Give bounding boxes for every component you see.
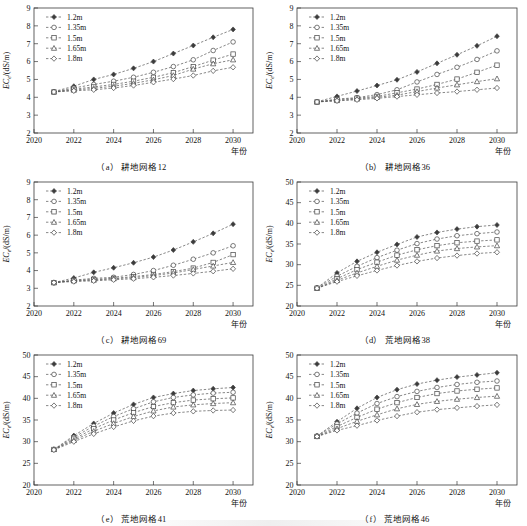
y-tick-label: 45	[286, 372, 294, 381]
data-point-open-circle	[231, 243, 236, 248]
data-point-filled-diamond	[231, 27, 236, 32]
data-point-open-circle	[495, 230, 500, 235]
x-tick-label: 2026	[145, 309, 161, 318]
plot-a: 23456789202020222024202620282030ECe/(dS/…	[0, 0, 263, 174]
x-tick-label: 2028	[185, 136, 201, 145]
legend-label: 1.65m	[67, 218, 86, 227]
data-point-filled-diamond	[171, 51, 176, 56]
plot-b: 23456789202020222024202620282030ECe/(dS/…	[263, 0, 527, 174]
data-point-open-diamond	[395, 413, 400, 418]
data-point-open-circle	[435, 237, 440, 242]
x-tick-label: 2028	[449, 309, 465, 318]
data-point-open-square	[495, 63, 499, 67]
data-point-open-square	[52, 36, 56, 40]
data-point-open-diamond	[495, 402, 500, 407]
series-line	[317, 240, 497, 288]
chart-b: 23456789202020222024202620282030ECe/(dS/…	[263, 0, 527, 163]
legend-label: 1.5m	[67, 381, 82, 390]
legend-label: 1.8m	[67, 228, 82, 237]
legend-label: 1.2m	[67, 360, 82, 369]
y-tick-label: 40	[23, 394, 31, 403]
data-point-filled-diamond	[191, 43, 196, 48]
chart-panel-a: 23456789202020222024202620282030ECe/(dS/…	[0, 0, 263, 174]
data-point-open-circle	[415, 80, 420, 85]
data-point-filled-diamond	[52, 15, 57, 20]
data-point-open-square	[315, 210, 319, 214]
y-tick-label: 5	[290, 75, 294, 84]
data-point-open-diamond	[211, 68, 216, 73]
data-point-open-diamond	[455, 405, 460, 410]
data-point-open-diamond	[315, 56, 320, 61]
data-point-open-diamond	[231, 65, 236, 70]
data-point-open-circle	[52, 25, 57, 30]
chart-caption-d: （d）荒地网格38	[263, 333, 527, 345]
caption-index-a: （a）	[96, 162, 118, 172]
legend-label: 1.35m	[67, 370, 86, 379]
data-point-open-diamond	[375, 418, 380, 423]
svg-text:ECe/(dS/m): ECe/(dS/m)	[265, 401, 275, 440]
y-tick-label: 25	[23, 459, 31, 468]
data-point-open-circle	[395, 394, 400, 399]
data-point-open-diamond	[315, 403, 320, 408]
y-axis-title: ECe/(dS/m)	[265, 401, 275, 440]
data-point-filled-diamond	[211, 231, 216, 236]
y-tick-label: 40	[286, 394, 294, 403]
x-tick-label: 2026	[145, 488, 161, 497]
data-point-open-circle	[455, 382, 460, 387]
data-point-open-circle	[52, 199, 57, 204]
data-point-open-square	[455, 77, 459, 81]
x-tick-label: 2022	[329, 488, 345, 497]
data-point-open-diamond	[395, 263, 400, 268]
y-tick-label: 50	[23, 351, 31, 360]
data-point-open-diamond	[52, 230, 57, 235]
y-tick-label: 8	[27, 22, 31, 31]
y-axis-title: ECe/(dS/m)	[2, 225, 12, 264]
data-point-open-circle	[315, 25, 320, 30]
y-tick-label: 35	[23, 416, 31, 425]
x-tick-label: 2030	[489, 488, 505, 497]
data-point-filled-diamond	[495, 222, 500, 227]
data-point-open-circle	[191, 393, 196, 398]
data-point-filled-diamond	[375, 83, 380, 88]
y-tick-label: 30	[286, 260, 294, 269]
legend-label: 1.5m	[330, 381, 345, 390]
data-point-filled-diamond	[455, 375, 460, 380]
data-point-open-square	[435, 391, 439, 395]
data-point-filled-diamond	[131, 260, 136, 265]
plot-d: 20253035404550202020222024202620282030EC…	[263, 174, 527, 347]
data-point-open-diamond	[475, 87, 480, 92]
data-point-open-circle	[475, 380, 480, 385]
data-point-filled-diamond	[52, 362, 57, 367]
caption-index-b: （b）	[360, 162, 383, 172]
data-point-filled-diamond	[415, 382, 420, 387]
data-point-open-circle	[171, 64, 176, 69]
data-point-open-circle	[211, 48, 216, 53]
data-point-open-circle	[191, 257, 196, 262]
y-tick-label: 7	[290, 40, 294, 49]
data-point-open-circle	[455, 233, 460, 238]
data-point-filled-diamond	[495, 34, 500, 39]
data-point-open-circle	[315, 372, 320, 377]
caption-index-c: （c）	[96, 335, 118, 345]
chart-f: 20253035404550202020222024202620282030EC…	[263, 347, 527, 515]
data-point-filled-diamond	[435, 378, 440, 383]
chart-legend: 1.2m1.35m1.5m1.65m1.8m	[309, 187, 349, 238]
svg-text:ECe/(dS/m): ECe/(dS/m)	[265, 225, 275, 264]
x-tick-label: 2026	[409, 309, 425, 318]
caption-index-e: （e）	[96, 514, 118, 524]
data-point-filled-diamond	[191, 239, 196, 244]
data-point-open-square	[231, 252, 235, 256]
data-point-open-diamond	[52, 56, 57, 61]
data-point-open-circle	[191, 57, 196, 62]
data-point-filled-diamond	[475, 372, 480, 377]
chart-panel-b: 23456789202020222024202620282030ECe/(dS/…	[263, 0, 527, 174]
y-tick-label: 7	[27, 40, 31, 49]
caption-title-b: 耕地网格36	[385, 162, 431, 172]
data-point-open-triangle	[474, 79, 479, 84]
series-line	[54, 410, 233, 450]
legend-label: 1.8m	[330, 228, 345, 237]
data-point-open-triangle	[494, 393, 499, 398]
data-point-filled-diamond	[475, 224, 480, 229]
data-point-open-triangle	[474, 395, 479, 400]
y-tick-label: 8	[27, 196, 31, 205]
